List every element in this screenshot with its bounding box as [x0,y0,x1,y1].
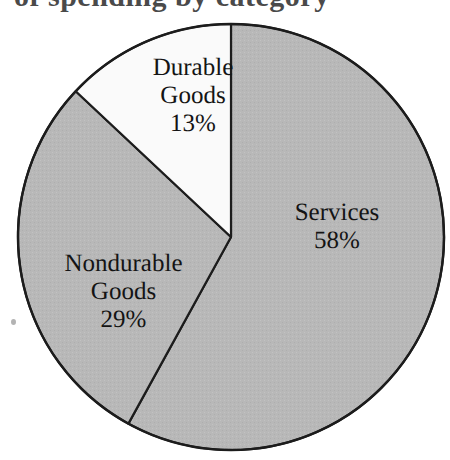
slice-label-durable-goods: Durable Goods 13% [113,54,273,138]
slice-label-services: Services 58% [272,199,402,255]
durable-goods-percent: 13% [113,110,273,138]
nondurable-goods-label-line1: Nondurable [36,250,211,278]
nondurable-goods-percent: 29% [36,306,211,334]
scan-artifact-speck [11,319,16,325]
nondurable-goods-label-line2: Goods [36,278,211,306]
slice-label-nondurable-goods: Nondurable Goods 29% [36,250,211,334]
services-label-line1: Services [272,199,402,227]
services-percent: 58% [272,227,402,255]
durable-goods-label-line2: Goods [113,82,273,110]
pie-chart-figure: of spending by category Durable Goods 13… [0,0,450,460]
durable-goods-label-line1: Durable [113,54,273,82]
